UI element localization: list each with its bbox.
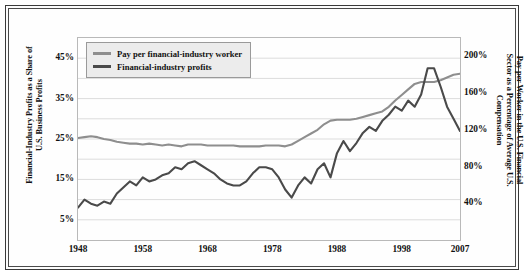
y2-axis-tick-label: 160% bbox=[464, 87, 487, 97]
x-axis-tick-label: 1968 bbox=[198, 244, 217, 254]
legend-item: Pay per financial-industry worker bbox=[93, 47, 242, 60]
y2-axis-tick-label: 80% bbox=[464, 161, 483, 171]
legend-label-profits: Financial-industry profits bbox=[117, 62, 212, 72]
x-axis-tick-label: 1948 bbox=[69, 244, 88, 254]
x-axis-tick-label: 2007 bbox=[451, 244, 470, 254]
series-line bbox=[78, 68, 460, 207]
y-axis-tick-label: 35% bbox=[55, 93, 74, 103]
y-axis-tick-label: 25% bbox=[55, 133, 74, 143]
x-axis-tick-label: 1978 bbox=[263, 244, 282, 254]
left-axis-title: Financial-Industry Profits as a Share of… bbox=[25, 40, 45, 190]
y2-axis-tick-label: 200% bbox=[464, 50, 487, 60]
plot-area: 5%15%25%35%45% 40%80%120%160%200% 194819… bbox=[77, 37, 461, 241]
y-axis-tick-label: 45% bbox=[55, 52, 74, 62]
chart-figure: Financial-Industry Profits as a Share of… bbox=[5, 5, 519, 270]
legend-label-pay: Pay per financial-industry worker bbox=[117, 49, 242, 59]
y-axis-tick-label: 15% bbox=[55, 173, 74, 183]
x-axis-tick-label: 1998 bbox=[392, 244, 411, 254]
chart-figure-inner-frame: Financial-Industry Profits as a Share of… bbox=[8, 8, 516, 267]
x-axis-tick-label: 1988 bbox=[328, 244, 347, 254]
y-axis-tick-label: 5% bbox=[60, 214, 74, 224]
x-axis-tick-label: 1958 bbox=[133, 244, 152, 254]
chart-legend: Pay per financial-industry worker Financ… bbox=[86, 42, 251, 78]
legend-item: Financial-industry profits bbox=[93, 60, 242, 73]
legend-swatch-pay bbox=[93, 52, 111, 55]
y2-axis-tick-label: 120% bbox=[464, 124, 487, 134]
y2-axis-tick-label: 40% bbox=[464, 197, 483, 207]
legend-swatch-profits bbox=[93, 65, 111, 68]
right-axis-title: Pay per Worker in the U.S. Financial Sec… bbox=[494, 45, 524, 195]
